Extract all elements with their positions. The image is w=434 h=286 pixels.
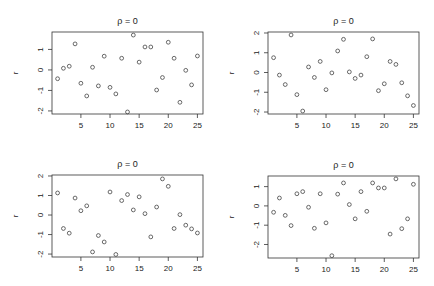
panel-4-data-point: [272, 210, 276, 214]
panel-2-frame: [268, 32, 419, 114]
panel-1-data-point: [190, 83, 194, 87]
panel-4-x-tick-label: 20: [380, 265, 389, 274]
panel-1-data-point: [166, 40, 170, 44]
panel-2-data-point: [359, 73, 363, 77]
panel-3-data-point: [126, 193, 130, 197]
panel-3-y-axis-label: r: [11, 214, 20, 217]
panel-2-data-point: [371, 37, 375, 41]
panel-1-title: ρ = 0: [117, 16, 137, 26]
panel-2-data-point: [336, 49, 340, 53]
panel-4-data-point: [278, 196, 282, 200]
panel-2-data-point: [295, 93, 299, 97]
panel-3-y-tick-label: 1: [36, 193, 45, 198]
panel-1-data-point: [120, 56, 124, 60]
panel-1-x-tick-label: 5: [79, 121, 84, 130]
panel-1-data-point: [161, 76, 165, 80]
panel-2-data-point: [289, 33, 293, 37]
panel-2-x-tick-label: 15: [351, 121, 360, 130]
panel-2-data-point: [283, 83, 287, 87]
panel-1-data-point: [73, 42, 77, 46]
panel-4-title: ρ = 0: [333, 160, 353, 170]
panel-4-data-point: [312, 226, 316, 230]
panel-3-y-tick-label: -1: [36, 230, 45, 238]
panel-1-x-tick-label: 10: [106, 121, 115, 130]
panel-3-data-point: [56, 191, 60, 195]
panel-4-data-point: [394, 177, 398, 181]
panel-1-data-point: [102, 54, 106, 58]
panel-2-x-tick-label: 20: [380, 121, 389, 130]
panel-2-title: ρ = 0: [333, 16, 353, 26]
figure: ρ = 0r510152025-2-101ρ = 0r510152025-2-1…: [0, 0, 434, 286]
panel-4-data-point: [307, 205, 311, 209]
panel-1-data-point: [91, 65, 95, 69]
panel-3-frame: [52, 175, 203, 257]
panel-4-data-point: [359, 190, 363, 194]
panel-1-data-point: [137, 60, 141, 64]
panel-4-y-tick-label: 0: [252, 203, 261, 208]
panel-2-y-tick-label: 2: [252, 30, 261, 35]
panel-3-data-point: [161, 177, 165, 181]
panel-3-data-point: [155, 205, 159, 209]
panel-4-data-point: [388, 232, 392, 236]
panel-2-y-axis-label: r: [227, 71, 236, 74]
panel-1-y-axis-label: r: [11, 71, 20, 74]
panel-2-y-tick-label: 0: [252, 70, 261, 75]
panel-2-data-point: [330, 71, 334, 75]
panel-2-y-tick-label: 1: [252, 50, 261, 55]
panel-1-x-tick-label: 15: [135, 121, 144, 130]
panel-3-data-point: [196, 231, 200, 235]
panel-3-data-point: [166, 184, 170, 188]
panel-4-y-tick-label: -2: [252, 240, 261, 248]
panel-2-x-tick-label: 5: [295, 121, 300, 130]
panel-1-data-point: [184, 68, 188, 72]
panel-4-data-point: [347, 203, 351, 207]
panel-4-data-point: [371, 181, 375, 185]
panel-1-y-tick-label: -1: [36, 86, 45, 94]
panel-4-data-point: [377, 186, 381, 190]
panel-1-data-point: [155, 88, 159, 92]
panel-3-data-point: [131, 208, 135, 212]
panel-1-data-point: [149, 45, 153, 49]
panel-4-data-point: [353, 217, 357, 221]
panel-4-x-tick-label: 5: [295, 265, 300, 274]
panel-3-data-point: [91, 250, 95, 254]
panel-1-data-point: [131, 33, 135, 37]
panel-1-data-point: [143, 45, 147, 49]
panel-4-data-point: [318, 192, 322, 196]
panel-3-data-point: [149, 235, 153, 239]
panel-3-x-tick-label: 20: [164, 264, 173, 273]
panel-4-data-point: [324, 221, 328, 225]
panel-1-data-point: [126, 110, 130, 114]
panel-4-data-point: [301, 190, 305, 194]
panel-4-data-point: [412, 182, 416, 186]
panel-2-data-point: [312, 76, 316, 80]
panel-4-data-point: [289, 224, 293, 228]
panel-3-x-tick-label: 10: [106, 264, 115, 273]
panel-1-data-point: [56, 77, 60, 81]
panel-3-data-point: [178, 213, 182, 217]
panel-2-data-point: [394, 63, 398, 67]
panel-1-data-point: [108, 85, 112, 89]
panel-3-x-tick-label: 5: [79, 264, 84, 273]
panel-2-data-point: [324, 88, 328, 92]
panel-2-data-point: [382, 82, 386, 86]
panel-1-frame: [52, 32, 203, 114]
panel-3-data-point: [96, 234, 100, 238]
panel-3-data-point: [184, 223, 188, 227]
panel-1-data-point: [114, 92, 118, 96]
panel-3-data-point: [85, 204, 89, 208]
panel-4-data-point: [406, 217, 410, 221]
panel-4-x-tick-label: 25: [409, 265, 418, 274]
panel-3-data-point: [120, 199, 124, 203]
panel-4-x-tick-label: 15: [351, 265, 360, 274]
panel-4-data-point: [295, 192, 299, 196]
panel-4-y-tick-label: -1: [252, 221, 261, 229]
panel-1-x-tick-label: 20: [164, 121, 173, 130]
panel-3-y-tick-label: -2: [36, 250, 45, 258]
panel-2-data-point: [342, 37, 346, 41]
panel-4-data-point: [283, 213, 287, 217]
panel-4-x-tick-label: 10: [322, 265, 331, 274]
panel-2-y-tick-label: -2: [252, 108, 261, 116]
panel-2-data-point: [377, 89, 381, 93]
panel-3-y-tick-label: 2: [36, 173, 45, 178]
